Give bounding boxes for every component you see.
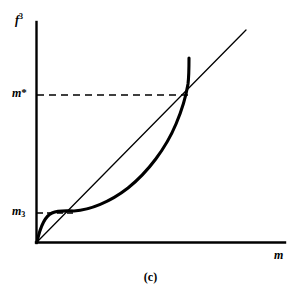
plot-canvas bbox=[0, 0, 301, 294]
figure-panel-c: f3 m* m3 m (c) bbox=[0, 0, 301, 294]
m-star-tick-label: m* bbox=[12, 87, 27, 99]
third-iterate-curve bbox=[37, 58, 189, 242]
m3-tick-label: m3 bbox=[12, 205, 25, 217]
figure-caption: (c) bbox=[0, 270, 301, 285]
y-axis-label: f3 bbox=[15, 14, 23, 26]
x-axis-label: m bbox=[274, 249, 283, 261]
